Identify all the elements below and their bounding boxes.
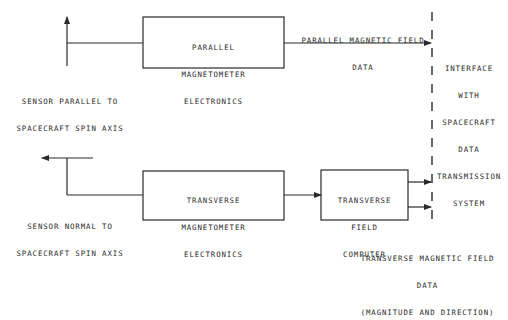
parallel-electronics-label: PARALLEL MAGNETOMETER ELECTRONICS	[148, 25, 279, 115]
parallel-data-label: PARALLEL MAGNETIC FIELD DATA	[283, 18, 443, 81]
sensor-parallel-label: SENSOR PARALLEL TO SPACECRAFT SPIN AXIS	[0, 79, 140, 142]
interface-label: INTERFACE WITH SPACECRAFT DATA TRANSMISS…	[430, 46, 508, 217]
sensor-normal-label: SENSOR NORMAL TO SPACECRAFT SPIN AXIS	[0, 204, 140, 267]
transverse-data-label: TRANSVERSE MAGNETIC FIELD DATA (MAGNITUD…	[360, 236, 495, 320]
transverse-electronics-label: TRANSVERSE MAGNETOMETER ELECTRONICS	[148, 178, 279, 268]
